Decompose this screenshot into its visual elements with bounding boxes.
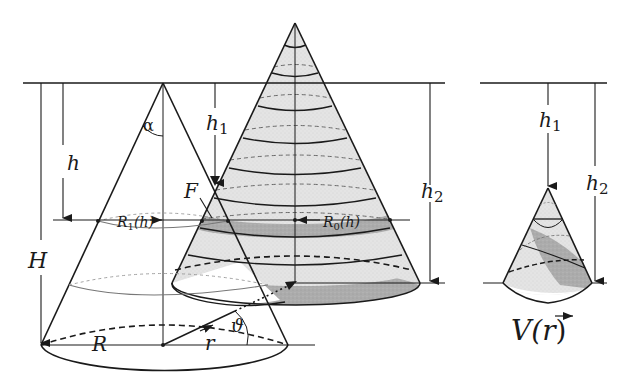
label-F: F bbox=[183, 179, 199, 203]
label-h: h bbox=[67, 151, 80, 175]
label-R: R bbox=[91, 332, 107, 356]
label-h1-left: h1 bbox=[206, 111, 228, 138]
label-theta: ϑ bbox=[231, 315, 244, 336]
label-h2-mid: h2 bbox=[421, 179, 443, 206]
cone-diagram: α h H h1 h2 h1 h2 F R1(h) R0(h) R r ϑ V(… bbox=[0, 0, 636, 388]
label-alpha: α bbox=[143, 116, 154, 135]
volume-cone bbox=[495, 188, 600, 310]
label-r-vector: r bbox=[205, 331, 216, 355]
label-volume: V(r) bbox=[511, 314, 566, 347]
label-h2-right: h2 bbox=[586, 171, 608, 198]
label-H: H bbox=[27, 248, 48, 273]
label-h1-right: h1 bbox=[539, 108, 561, 135]
label-R0h: R0(h) bbox=[322, 214, 360, 232]
label-R1h: R1(h) bbox=[116, 214, 154, 232]
